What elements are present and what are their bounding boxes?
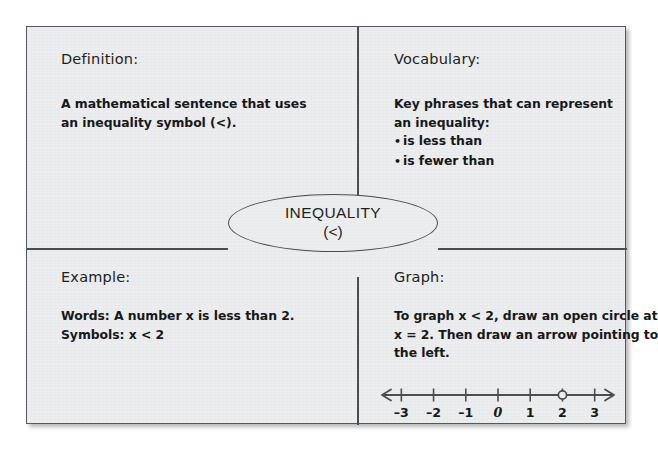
vocabulary-line-2: an inequality:	[394, 114, 613, 133]
number-line-tick-label: 0	[494, 405, 503, 420]
vocabulary-bullet-label: is fewer than	[403, 152, 494, 171]
graph-heading: Graph:	[394, 269, 445, 285]
number-line-graph: –3–2–10123	[374, 381, 622, 423]
vocabulary-bullet-item: • is fewer than	[394, 152, 613, 172]
vocabulary-body: Key phrases that can represent an inequa…	[394, 95, 613, 171]
example-line-symbols: Symbols: x < 2	[61, 326, 294, 345]
vocabulary-line-1: Key phrases that can represent	[394, 95, 613, 114]
center-symbol-label: (<)	[323, 222, 342, 241]
frayer-model-card: Definition: A mathematical sentence that…	[26, 26, 626, 424]
number-line-tick-label: 3	[590, 405, 599, 420]
center-concept-oval: INEQUALITY (<)	[228, 194, 438, 252]
bullet-dot-icon: •	[394, 133, 403, 152]
number-line-tick-label: 2	[558, 405, 567, 420]
graph-line-3: the left.	[394, 344, 658, 363]
quadrant-graph: Graph: To graph x < 2, draw an open circ…	[358, 249, 627, 425]
vocabulary-heading: Vocabulary:	[394, 51, 480, 67]
number-line-tick-label: –3	[394, 405, 409, 420]
definition-body: A mathematical sentence that uses an ine…	[61, 95, 307, 132]
number-line-tick-label: –1	[458, 405, 473, 420]
number-line-tick-label: –2	[426, 405, 441, 420]
number-line-svg: –3–2–10123	[374, 381, 622, 423]
example-body: Words: A number x is less than 2. Symbol…	[61, 307, 294, 344]
example-line-words: Words: A number x is less than 2.	[61, 307, 294, 326]
definition-line-1: A mathematical sentence that uses	[61, 95, 307, 114]
definition-heading: Definition:	[61, 51, 138, 67]
center-term-label: INEQUALITY	[285, 204, 381, 221]
quadrant-example: Example: Words: A number x is less than …	[27, 249, 357, 425]
graph-line-2: x = 2. Then draw an arrow pointing to	[394, 326, 658, 345]
number-line-open-circle	[558, 391, 566, 399]
graph-body: To graph x < 2, draw an open circle at x…	[394, 307, 658, 363]
vocabulary-bullet-label: is less than	[403, 132, 482, 151]
definition-line-2: an inequality symbol (<).	[61, 114, 307, 133]
bullet-dot-icon: •	[394, 153, 403, 172]
example-heading: Example:	[61, 269, 130, 285]
number-line-tick-label: 1	[526, 405, 535, 420]
vocabulary-bullet-item: • is less than	[394, 132, 613, 152]
graph-line-1: To graph x < 2, draw an open circle at	[394, 307, 658, 326]
